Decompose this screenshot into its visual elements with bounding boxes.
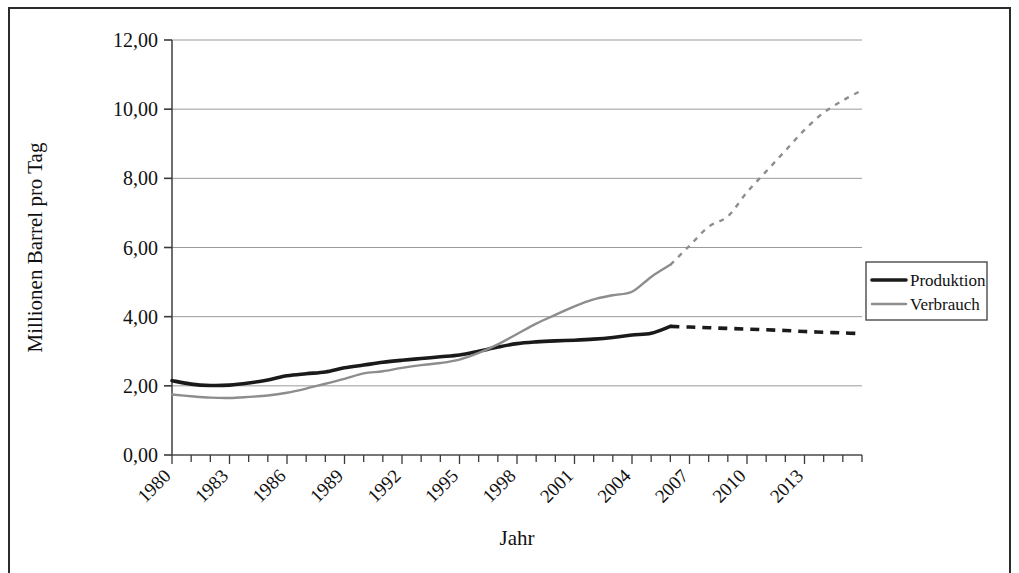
x-axis-tick-label: 2010 (708, 465, 750, 507)
y-axis-title: Millionen Barrel pro Tag (23, 142, 47, 352)
x-axis-tick-label: 1980 (133, 465, 175, 507)
y-axis-tick-label: 2,00 (123, 375, 158, 397)
x-axis-tick-label: 2013 (766, 465, 808, 507)
x-axis-tick-label: 2007 (651, 465, 693, 507)
y-axis-tick-label: 0,00 (123, 444, 158, 466)
x-axis-tick-label: 1995 (421, 465, 463, 507)
x-axis-ticks (172, 455, 862, 464)
x-axis-tick-label: 1998 (478, 465, 520, 507)
y-axis-tick-label: 6,00 (123, 237, 158, 259)
legend-label-produktion: Produktion (910, 271, 986, 290)
y-axis-ticks (164, 40, 172, 455)
y-axis-tick-labels: 0,002,004,006,008,0010,0012,00 (113, 29, 158, 466)
x-axis-title: Jahr (500, 526, 535, 550)
x-axis-tick-label: 1986 (248, 465, 290, 507)
x-axis-tick-label: 2004 (593, 465, 635, 507)
x-axis-tick-labels: 1980198319861989199219951998200120042007… (133, 465, 807, 507)
legend: ProduktionVerbrauch (866, 262, 987, 320)
legend-label-verbrauch: Verbrauch (910, 295, 980, 314)
y-axis-tick-label: 12,00 (113, 29, 158, 51)
x-axis-tick-label: 2001 (536, 465, 578, 507)
y-axis-tick-label: 8,00 (123, 167, 158, 189)
x-axis-tick-label: 1992 (363, 465, 405, 507)
y-axis-tick-label: 4,00 (123, 306, 158, 328)
x-axis-tick-label: 1983 (191, 465, 233, 507)
y-axis-tick-label: 10,00 (113, 98, 158, 120)
x-axis-tick-label: 1989 (306, 465, 348, 507)
